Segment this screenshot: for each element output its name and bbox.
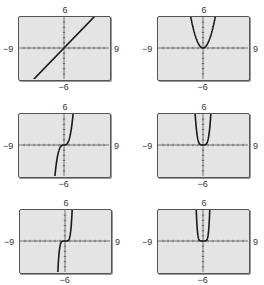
- ymax-label: 6: [202, 198, 207, 208]
- xmin-label: −9: [142, 141, 152, 151]
- plot-area: [19, 114, 109, 176]
- ymin-label: −6: [198, 179, 208, 189]
- xmax-label: 9: [253, 237, 258, 247]
- calculator-screen: [157, 16, 250, 81]
- xmax-label: 9: [114, 141, 119, 151]
- calculator-screen: [157, 113, 250, 178]
- ymax-label: 6: [63, 5, 68, 15]
- calculator-screen: [19, 209, 112, 274]
- ymax-label: 6: [202, 5, 207, 15]
- calculator-screen: [18, 16, 111, 81]
- xmin-label: −9: [3, 141, 13, 151]
- ymax-label: 6: [64, 198, 69, 208]
- xmax-label: 9: [114, 44, 119, 54]
- ymin-label: −6: [198, 82, 208, 92]
- calculator-screen: [157, 209, 250, 274]
- ymin-label: −6: [59, 179, 69, 189]
- ymin-label: −6: [198, 275, 208, 285]
- xmin-label: −9: [3, 44, 13, 54]
- plot-area: [20, 210, 110, 272]
- xmin-label: −9: [4, 237, 14, 247]
- ymin-label: −6: [60, 275, 70, 285]
- plot-area: [158, 210, 248, 272]
- plot-area: [19, 17, 109, 79]
- calculator-screen: [18, 113, 111, 178]
- ymin-label: −6: [59, 82, 69, 92]
- xmax-label: 9: [115, 237, 120, 247]
- ymax-label: 6: [202, 102, 207, 112]
- plot-area: [158, 114, 248, 176]
- xmin-label: −9: [142, 237, 152, 247]
- plot-area: [158, 17, 248, 79]
- xmin-label: −9: [142, 44, 152, 54]
- xmax-label: 9: [253, 141, 258, 151]
- ymax-label: 6: [63, 102, 68, 112]
- xmax-label: 9: [253, 44, 258, 54]
